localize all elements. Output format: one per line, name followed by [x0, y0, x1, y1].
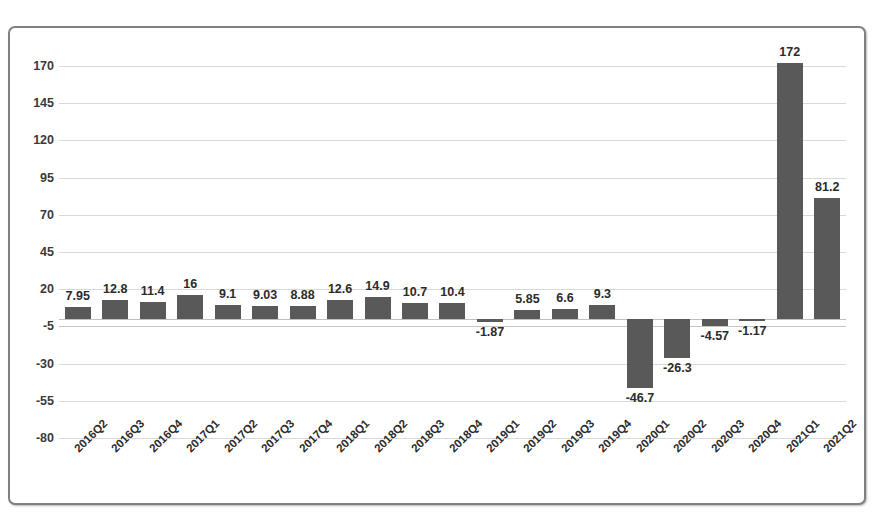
bar[interactable]	[814, 198, 840, 319]
bar-value-label: 14.9	[365, 280, 389, 293]
bar-value-label: 172	[779, 46, 800, 59]
y-axis-tick-label: -80	[14, 432, 54, 445]
bar-value-label: 8.88	[290, 289, 314, 302]
bar-group[interactable]: 9.1	[209, 66, 246, 438]
y-axis-tick-label: 145	[14, 97, 54, 110]
bar-group[interactable]: 81.2	[809, 66, 846, 438]
bar-group[interactable]: 10.7	[396, 66, 433, 438]
bar-group[interactable]: -46.7	[621, 66, 658, 438]
bar-value-label: 7.95	[66, 290, 90, 303]
bar-group[interactable]: 16	[171, 66, 208, 438]
bar[interactable]	[514, 310, 540, 319]
y-axis-tick-label: 45	[14, 246, 54, 259]
chart-frame: 17014512095704520-5-30-55-80 7.9512.811.…	[8, 26, 866, 505]
bar[interactable]	[215, 305, 241, 319]
bar-group[interactable]: 8.88	[284, 66, 321, 438]
bar[interactable]	[739, 319, 765, 322]
bar-value-label: 12.8	[103, 283, 127, 296]
bar[interactable]	[664, 319, 690, 358]
bar-group[interactable]: 172	[771, 66, 808, 438]
bar-group[interactable]: 14.9	[359, 66, 396, 438]
plot-area: 7.9512.811.4169.19.038.8812.614.910.710.…	[59, 66, 846, 438]
y-axis-tick-label: 20	[14, 283, 54, 296]
bar-group[interactable]: 7.95	[59, 66, 96, 438]
bar[interactable]	[252, 306, 278, 319]
bar-group[interactable]: -1.87	[471, 66, 508, 438]
bar-value-label: 10.7	[403, 286, 427, 299]
y-axis-tick-label: -55	[14, 395, 54, 408]
bar-group[interactable]: 10.4	[434, 66, 471, 438]
bar-value-label: 10.4	[440, 286, 464, 299]
bar[interactable]	[365, 297, 391, 319]
bar[interactable]	[402, 303, 428, 319]
bar-value-label: 9.3	[594, 288, 611, 301]
bar[interactable]	[589, 305, 615, 319]
bar-group[interactable]: 9.03	[246, 66, 283, 438]
bar[interactable]	[65, 307, 91, 319]
y-axis-tick-label: 170	[14, 60, 54, 73]
bar[interactable]	[290, 306, 316, 319]
bar-value-label: -1.87	[476, 326, 505, 339]
bar-group[interactable]: -26.3	[659, 66, 696, 438]
bar-value-label: 11.4	[141, 285, 165, 298]
bar[interactable]	[327, 300, 353, 319]
bar[interactable]	[777, 63, 803, 319]
y-axis-tick-label: 95	[14, 172, 54, 185]
bar[interactable]	[439, 303, 465, 318]
bar-value-label: 9.03	[253, 289, 277, 302]
bar-value-label: -4.57	[701, 330, 730, 343]
bar-value-label: -46.7	[626, 392, 655, 405]
y-axis-tick-label: -5	[14, 320, 54, 333]
bar-group[interactable]: 11.4	[134, 66, 171, 438]
bar[interactable]	[140, 302, 166, 319]
bar-group[interactable]: 12.8	[96, 66, 133, 438]
bar[interactable]	[177, 295, 203, 319]
bar-value-label: 6.6	[556, 292, 573, 305]
bar-value-label: -26.3	[663, 362, 692, 375]
bar-group[interactable]: 6.6	[546, 66, 583, 438]
bar[interactable]	[702, 319, 728, 326]
bar-group[interactable]: 12.6	[321, 66, 358, 438]
bar[interactable]	[627, 319, 653, 388]
bar-group[interactable]: -1.17	[734, 66, 771, 438]
bar-group[interactable]: 5.85	[509, 66, 546, 438]
y-axis: 17014512095704520-5-30-55-80	[10, 66, 54, 438]
bar[interactable]	[552, 309, 578, 319]
bar[interactable]	[102, 300, 128, 319]
y-axis-tick-label: 120	[14, 134, 54, 147]
bar-value-label: -1.17	[738, 325, 767, 338]
bar-value-label: 12.6	[328, 283, 352, 296]
y-axis-tick-label: -30	[14, 358, 54, 371]
bar-value-label: 9.1	[219, 288, 236, 301]
bar-group[interactable]: 9.3	[584, 66, 621, 438]
x-axis: 2016Q22016Q32016Q42017Q12017Q22017Q32017…	[59, 440, 846, 500]
bar-group[interactable]: -4.57	[696, 66, 733, 438]
bar-value-label: 81.2	[815, 181, 839, 194]
bar[interactable]	[477, 319, 503, 322]
bar-value-label: 5.85	[515, 293, 539, 306]
y-axis-tick-label: 70	[14, 209, 54, 222]
bar-value-label: 16	[183, 278, 197, 291]
